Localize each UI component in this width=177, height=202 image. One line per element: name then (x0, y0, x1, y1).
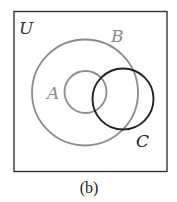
figure-caption: (b) (80, 179, 99, 197)
set-a-label: A (45, 83, 59, 103)
universe-label: U (19, 18, 34, 38)
set-c-label: C (136, 131, 149, 151)
venn-diagram: U B A C (b) (0, 0, 177, 202)
set-b-label: B (110, 26, 124, 46)
